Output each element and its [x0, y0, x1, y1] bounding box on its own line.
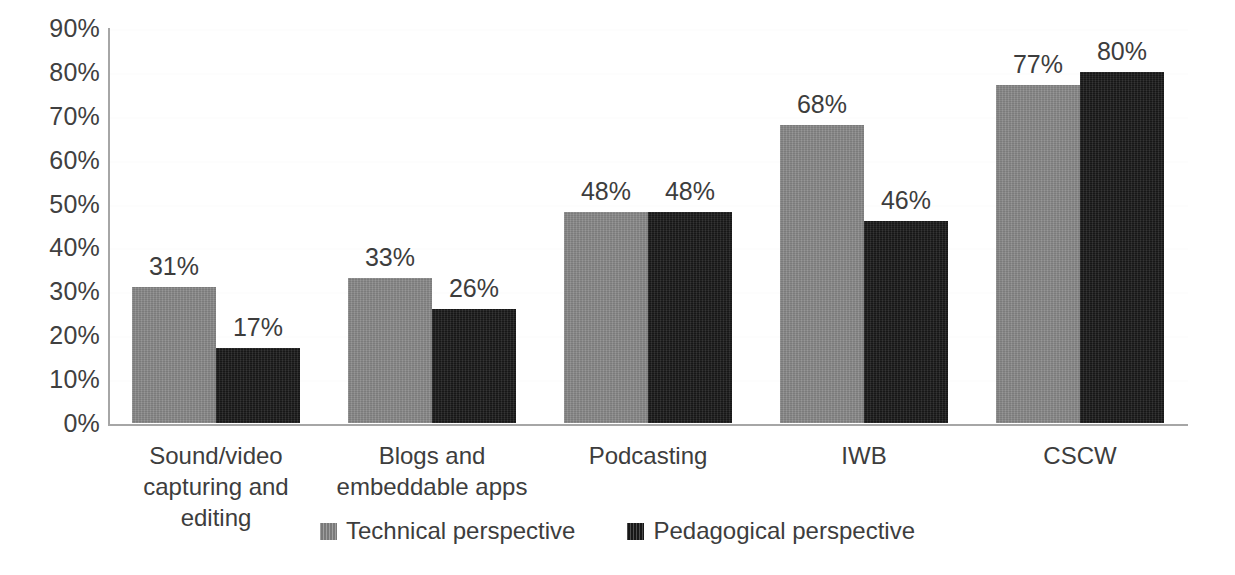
bar-value-label: 48% [648, 179, 732, 204]
bar-value-label: 77% [996, 52, 1080, 77]
bar-value-label: 68% [780, 92, 864, 117]
y-axis-tick-label: 40% [14, 235, 100, 260]
x-axis-category-label-line: CSCW [972, 440, 1188, 471]
legend-label: Pedagogical perspective [653, 519, 915, 543]
bar [780, 125, 864, 423]
y-axis-tick-label: 30% [14, 279, 100, 304]
bar [996, 85, 1080, 423]
y-axis: 0%10%20%30%40%50%60%70%80%90% [10, 0, 100, 575]
bar-group: 48%48% [540, 28, 756, 423]
bar [216, 348, 300, 423]
legend-label: Technical perspective [346, 519, 575, 543]
chart-legend: Technical perspectivePedagogical perspec… [0, 519, 1235, 543]
x-axis-category-label: Podcasting [540, 440, 756, 471]
bar-value-label: 31% [132, 254, 216, 279]
legend-item[interactable]: Technical perspective [320, 519, 575, 543]
y-axis-tick-label: 90% [14, 16, 100, 41]
y-axis-tick-label: 80% [14, 60, 100, 85]
x-axis-category-label: Blogs andembeddable apps [324, 440, 540, 502]
bar [348, 278, 432, 423]
plot-area: 31%17%33%26%48%48%68%46%77%80% [108, 28, 1188, 425]
legend-item[interactable]: Pedagogical perspective [627, 519, 915, 543]
x-axis-category-label: CSCW [972, 440, 1188, 471]
bar-value-label: 17% [216, 315, 300, 340]
bar [132, 287, 216, 423]
bar-group: 68%46% [756, 28, 972, 423]
bar [564, 212, 648, 423]
bar-group: 77%80% [972, 28, 1188, 423]
x-axis-category-label-line: Blogs and [324, 440, 540, 471]
bar-group: 33%26% [324, 28, 540, 423]
bar [1080, 72, 1164, 423]
x-axis-line [108, 424, 1188, 426]
y-axis-tick-label: 60% [14, 148, 100, 173]
bar-chart: 0%10%20%30%40%50%60%70%80%90% 31%17%33%2… [0, 0, 1235, 575]
bar-value-label: 80% [1080, 39, 1164, 64]
bar-value-label: 48% [564, 179, 648, 204]
bar [864, 221, 948, 423]
bar-group: 31%17% [108, 28, 324, 423]
x-axis-category-label-line: embeddable apps [324, 471, 540, 502]
bar-value-label: 33% [348, 245, 432, 270]
legend-swatch-icon [627, 523, 644, 540]
bar-value-label: 26% [432, 276, 516, 301]
legend-swatch-icon [320, 523, 337, 540]
bar [648, 212, 732, 423]
y-axis-tick-label: 10% [14, 367, 100, 392]
x-axis-category-label-line: Sound/video [108, 440, 324, 471]
x-axis-category-labels: Sound/videocapturing and editingBlogs an… [108, 440, 1188, 510]
x-axis-category-label-line: Podcasting [540, 440, 756, 471]
bar-value-label: 46% [864, 188, 948, 213]
y-axis-tick-label: 70% [14, 104, 100, 129]
y-axis-tick-label: 0% [14, 411, 100, 436]
x-axis-category-label-line: IWB [756, 440, 972, 471]
y-axis-tick-label: 50% [14, 192, 100, 217]
y-axis-tick-label: 20% [14, 323, 100, 348]
bar [432, 309, 516, 423]
x-axis-category-label: IWB [756, 440, 972, 471]
